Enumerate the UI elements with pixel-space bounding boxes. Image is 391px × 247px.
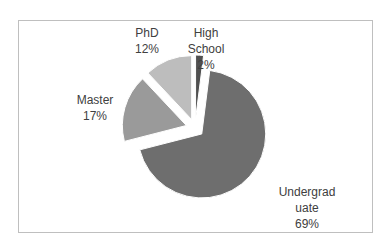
label-undergraduate: Undergrad uate 69% xyxy=(276,184,338,232)
label-master: Master 17% xyxy=(72,92,118,124)
label-high-school: High School 2% xyxy=(186,25,226,73)
label-phd: PhD 12% xyxy=(130,25,164,57)
slice-undergraduate xyxy=(140,70,266,197)
